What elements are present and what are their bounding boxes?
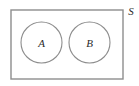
universal-set-label: S: [128, 5, 134, 17]
set-a-label: A: [37, 37, 45, 49]
venn-diagram: A B S: [0, 0, 139, 86]
set-b-label: B: [86, 37, 93, 49]
venn-canvas: A B S: [0, 0, 139, 86]
universal-set-rectangle: [11, 10, 123, 79]
